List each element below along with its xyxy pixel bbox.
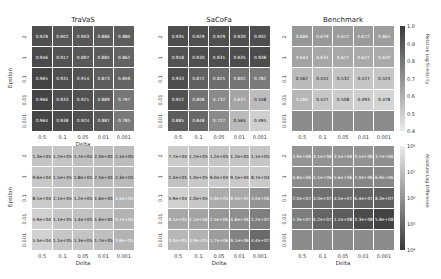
heatmap-cell: 5.6e+06: [333, 167, 353, 187]
heatmap-cell: 1.4e+05: [73, 209, 93, 229]
top-colorbar: [400, 26, 405, 131]
heatmap-cell: 0.621: [354, 47, 374, 67]
heatmap-cell: 0.620: [374, 47, 394, 67]
colorbar-tick: 0.6: [407, 93, 415, 99]
x-tick-label: 0.5: [168, 253, 188, 259]
colorbar-label: Relative Log Similarity: [425, 34, 430, 84]
heatmap-cell: 1.4e+05: [168, 167, 188, 187]
x-tick-label: 0.05: [333, 134, 353, 140]
heatmap-cell: 0.672: [354, 26, 374, 46]
heatmap-cell: 2.1e+05: [114, 146, 134, 166]
colorbar-tick: 0.8: [407, 58, 415, 64]
heatmap-cell: 0.924: [73, 111, 93, 131]
heatmap-cell: 1.1e+08: [333, 209, 353, 229]
heatmap-cell: 0.887: [94, 111, 114, 131]
y-tick-label: 1: [157, 48, 163, 68]
x-tick-label: 0.05: [73, 253, 93, 259]
heatmap-cell: 0.524: [374, 68, 394, 88]
x-tick-label: 0.05: [333, 253, 353, 259]
heatmap-cell: 0.935: [230, 47, 250, 67]
heatmap-cell: 3.9e+05: [189, 230, 209, 250]
y-tick-label: 0.001: [157, 230, 163, 250]
heatmap-cell: [374, 230, 394, 250]
heatmap-cell: 0.946: [32, 47, 52, 67]
bottom-colorbar: [400, 146, 405, 250]
heatmap-cell: 1.0e+05: [189, 188, 209, 208]
x-tick-label: 0.05: [73, 134, 93, 140]
heatmap-cell: 0.938: [53, 111, 73, 131]
heatmap-cell: 0.686: [292, 26, 312, 46]
heatmap-cell: 4.5e+07: [333, 188, 353, 208]
colorbar-tick: 10⁸: [407, 143, 415, 149]
heatmap-cell: 3.1e+06: [313, 146, 333, 166]
heatmap-cell: 0.918: [168, 47, 188, 67]
heatmap-cell: 0.930: [230, 26, 250, 46]
heatmap-cell: 1.2e+05: [230, 146, 250, 166]
heatmap-cell: 1.2e+07: [250, 209, 270, 229]
heatmap-cell: 1.5e+05: [53, 167, 73, 187]
colorbar-tick: 10⁷: [407, 169, 415, 175]
heatmap-cell: 0.886: [94, 26, 114, 46]
heatmap-cell: [313, 230, 333, 250]
heatmap-cell: 1.0e+05: [189, 167, 209, 187]
x-tick-label: 0.1: [313, 134, 333, 140]
x-tick-label: 0.5: [292, 253, 312, 259]
y-tick-label: 0.1: [21, 188, 27, 208]
heatmap-cell: 0.931: [53, 68, 73, 88]
heatmap-cell: 7.7e+04: [168, 146, 188, 166]
colorbar-label: Absolute Log Difference: [425, 154, 430, 208]
heatmap-cell: 7.0e+06: [354, 167, 374, 187]
colorbar-tick: 10⁴: [407, 247, 415, 253]
heatmap-cell: 0.932: [250, 26, 270, 46]
heatmap-cell: 5.9e+05: [209, 188, 229, 208]
heatmap-cell: 1.1e+05: [53, 188, 73, 208]
heatmap-cell: 0.727: [209, 111, 229, 131]
heatmap-cell: 0.508: [333, 90, 353, 110]
y-axis-label: Epsilon: [7, 58, 13, 98]
heatmap-cell: 2.5e+05: [94, 167, 114, 187]
heatmap-cell: 0.665: [374, 26, 394, 46]
colorbar-tick: 0.4: [407, 128, 415, 134]
y-tick-label: 0.001: [281, 111, 287, 131]
heatmap-cell: 1.3e+05: [32, 146, 52, 166]
heatmap-cell: [292, 230, 312, 250]
x-tick-label: 0.5: [168, 134, 188, 140]
heatmap-grid: 7.7e+041.2e+051.2e+051.2e+051.1e+051.4e+…: [168, 146, 270, 250]
heatmap-cell: 0.643: [292, 47, 312, 67]
heatmap-cell: 0.532: [333, 68, 353, 88]
heatmap-cell: 3.0e+06: [250, 188, 270, 208]
x-tick-label: 0.01: [353, 253, 373, 259]
heatmap-cell: 0.495: [250, 111, 270, 131]
heatmap-cell: 1.7e+05: [73, 146, 93, 166]
heatmap-cell: 8.1e+04: [32, 188, 52, 208]
heatmap-cell: 0.965: [32, 68, 52, 88]
x-tick-label: 0.5: [32, 253, 52, 259]
heatmap-cell: 0.672: [333, 26, 353, 46]
heatmap-cell: 9.1e+04: [230, 167, 250, 187]
heatmap-cell: 3.5e+06: [333, 146, 353, 166]
heatmap-cell: 0.627: [333, 47, 353, 67]
heatmap-cell: 0.885: [168, 111, 188, 131]
heatmap-cell: 0.917: [53, 47, 73, 67]
y-tick-label: 0.01: [21, 90, 27, 110]
heatmap-cell: 3.8e+05: [114, 230, 134, 250]
heatmap-cell: 9.1e+06: [230, 230, 250, 250]
x-tick-label: 0.1: [53, 134, 73, 140]
heatmap-cell: [313, 111, 333, 131]
heatmap-cell: 0.825: [209, 68, 229, 88]
x-tick-label: 0.5: [292, 134, 312, 140]
heatmap-cell: 2.9e+06: [292, 146, 312, 166]
x-tick-label: 0.05: [209, 253, 229, 259]
x-tick-label: 0.01: [93, 253, 113, 259]
heatmap-cell: 0.802: [230, 68, 250, 88]
x-axis-label: Delta: [63, 260, 103, 266]
heatmap-cell: 2.0e+07: [292, 188, 312, 208]
heatmap-cell: 0.880: [114, 26, 134, 46]
y-tick-label: 1: [281, 48, 287, 68]
heatmap-cell: 0.885: [94, 47, 114, 67]
x-tick-label: 0.05: [209, 134, 229, 140]
heatmap-cell: 1.8e+05: [73, 167, 93, 187]
y-tick-label: 0.01: [157, 90, 163, 110]
heatmap-cell: 4.4e+07: [250, 230, 270, 250]
heatmap-grid: 0.9350.9290.9290.9300.9320.9180.9300.931…: [168, 26, 270, 131]
